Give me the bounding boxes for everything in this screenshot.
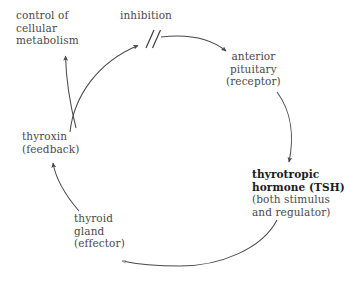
node-line: inhibition xyxy=(120,9,172,22)
node-line: (both stimulus xyxy=(252,193,345,206)
node-control-of-cellular-metabolism: control of cellular metabolism xyxy=(16,9,79,47)
arrow-thyroxin-to-metabolism xyxy=(66,56,77,128)
arrow-inhibition-to-pituitary xyxy=(161,36,226,51)
node-line: cellular xyxy=(16,22,79,35)
node-inhibition: inhibition xyxy=(120,9,172,22)
node-line: metabolism xyxy=(16,34,79,47)
arrow-thyroxin-to-inhibition xyxy=(70,46,138,133)
node-line: thyroxin xyxy=(22,130,79,143)
thyroid-feedback-diagram: control of cellular metabolism inhibitio… xyxy=(0,0,354,282)
node-line: control of xyxy=(16,9,79,22)
node-thyroxin: thyroxin (feedback) xyxy=(22,130,79,155)
inhibition-symbol xyxy=(146,30,161,48)
node-line: thyroid xyxy=(74,212,125,225)
arrow-pituitary-to-tsh xyxy=(277,92,291,162)
node-line: hormone (TSH) xyxy=(252,181,345,194)
node-line: (feedback) xyxy=(22,143,79,156)
node-line: gland xyxy=(74,225,125,238)
node-line: (receptor) xyxy=(226,75,281,88)
node-line: pituitary xyxy=(226,63,281,76)
node-thyroid-gland: thyroid gland (effector) xyxy=(74,212,125,250)
node-line: thyrotropic xyxy=(252,168,345,181)
arrow-thyroid-to-thyroxin xyxy=(53,163,79,211)
node-line: anterior xyxy=(226,50,281,63)
node-thyrotropic-hormone-tsh: thyrotropic hormone (TSH) (both stimulus… xyxy=(252,168,345,218)
arrow-tsh-to-thyroid xyxy=(122,220,277,266)
node-line: (effector) xyxy=(74,237,125,250)
node-line: and regulator) xyxy=(252,206,345,219)
node-anterior-pituitary: anterior pituitary (receptor) xyxy=(226,50,281,88)
